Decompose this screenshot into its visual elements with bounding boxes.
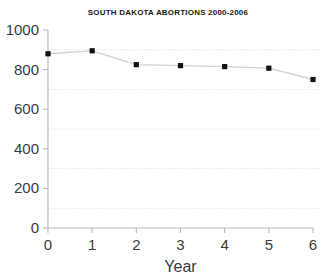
- data-point-markers: [45, 48, 315, 82]
- data-marker-0: [45, 51, 50, 56]
- y-tick-label-400: 400: [14, 140, 39, 157]
- x-tick-label-5: 5: [265, 236, 273, 253]
- data-marker-6: [310, 77, 315, 82]
- y-tick-label-600: 600: [14, 100, 39, 117]
- x-tick-label-6: 6: [309, 236, 317, 253]
- x-axis-title: Year: [164, 258, 197, 275]
- y-tick-label-1000: 1000: [6, 21, 39, 38]
- y-axis-tick-labels: 02004006008001000: [6, 21, 39, 236]
- y-tick-label-800: 800: [14, 61, 39, 78]
- data-marker-4: [222, 64, 227, 69]
- data-marker-3: [178, 63, 183, 68]
- tick-marks-group: [43, 30, 313, 233]
- y-tick-label-0: 0: [31, 219, 39, 236]
- x-tick-label-4: 4: [220, 236, 228, 253]
- data-marker-5: [266, 66, 271, 71]
- chart-container: SOUTH DAKOTA ABORTIONS 2000-2006 0200400…: [0, 0, 336, 280]
- data-marker-1: [90, 48, 95, 53]
- x-tick-label-3: 3: [176, 236, 184, 253]
- x-tick-label-0: 0: [44, 236, 52, 253]
- chart-plot-area: 02004006008001000 0123456 Year: [0, 0, 336, 280]
- x-tick-label-1: 1: [88, 236, 96, 253]
- data-marker-2: [134, 62, 139, 67]
- gridlines-group: [48, 50, 321, 208]
- y-tick-label-200: 200: [14, 179, 39, 196]
- x-axis-tick-labels: 0123456: [44, 236, 317, 253]
- x-tick-label-2: 2: [132, 236, 140, 253]
